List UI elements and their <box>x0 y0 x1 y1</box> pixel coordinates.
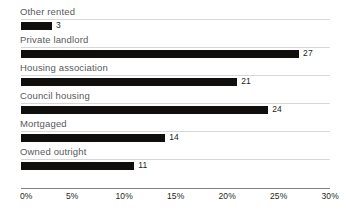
category-label: Mortgaged <box>20 117 67 130</box>
chart-row: Mortgaged14 <box>0 117 347 145</box>
bar-value-label: 24 <box>272 104 282 115</box>
chart-row: Housing association21 <box>0 61 347 89</box>
category-label: Owned outright <box>20 145 87 158</box>
bar <box>21 78 237 86</box>
bar <box>21 106 268 114</box>
row-separator-rule <box>21 103 330 104</box>
row-separator-rule <box>21 19 330 20</box>
x-axis-tick-label: 25% <box>270 191 287 202</box>
bar <box>21 162 134 170</box>
x-axis-tick-label: 10% <box>116 191 133 202</box>
x-axis-tick-label: 5% <box>66 191 79 202</box>
bar <box>21 22 52 30</box>
bar-value-label: 11 <box>138 160 147 171</box>
x-axis-tick-label: 0% <box>20 191 33 202</box>
chart-row: Other rented3 <box>0 5 347 33</box>
x-axis-tick-label: 20% <box>219 191 236 202</box>
row-separator-rule <box>21 159 330 160</box>
x-axis-tick-labels: 0%5%10%15%20%25%30% <box>0 191 347 205</box>
bar-value-label: 14 <box>169 132 179 143</box>
chart-row: Owned outright11 <box>0 145 347 173</box>
chart-rows: Other rented3Private landlord27Housing a… <box>0 0 347 188</box>
chart-row: Council housing24 <box>0 89 347 117</box>
bar-value-label: 21 <box>241 76 251 87</box>
category-label: Other rented <box>20 5 75 18</box>
bar-value-label: 3 <box>56 20 61 31</box>
x-axis-tick-label: 15% <box>167 191 184 202</box>
category-label: Private landlord <box>20 33 88 46</box>
x-axis-tick-label: 30% <box>322 191 339 202</box>
bar-value-label: 27 <box>303 48 313 59</box>
x-axis-line <box>21 188 330 189</box>
bar-chart: Other rented3Private landlord27Housing a… <box>0 0 347 215</box>
category-label: Council housing <box>20 89 90 102</box>
category-label: Housing association <box>20 61 108 74</box>
bar <box>21 134 165 142</box>
row-separator-rule <box>21 47 330 48</box>
row-separator-rule <box>21 75 330 76</box>
bar <box>21 50 299 58</box>
chart-row: Private landlord27 <box>0 33 347 61</box>
